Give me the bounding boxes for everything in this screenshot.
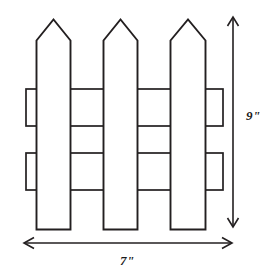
rail-lower-right-stub [204, 153, 223, 190]
rail-lower-gap-2 [136, 153, 172, 190]
width-dimension-label: 7" [120, 253, 135, 269]
picket-right [171, 20, 206, 230]
rail-upper-right-stub [204, 89, 223, 126]
fence-drawing [0, 0, 273, 274]
width-dimension-arrow [24, 238, 232, 249]
rail-upper-left-stub [26, 89, 37, 126]
rail-upper-gap-2 [136, 89, 172, 126]
picket-left [37, 20, 71, 230]
fence-pickets [37, 20, 206, 230]
height-dimension-arrow [228, 17, 239, 227]
rail-lower-left-stub [26, 153, 37, 190]
height-dimension-label: 9" [246, 108, 261, 124]
rail-lower-gap-1 [69, 153, 105, 190]
picket-center [104, 20, 138, 230]
fence-figure: 9" 7" [0, 0, 273, 274]
rail-upper-gap-1 [69, 89, 105, 126]
